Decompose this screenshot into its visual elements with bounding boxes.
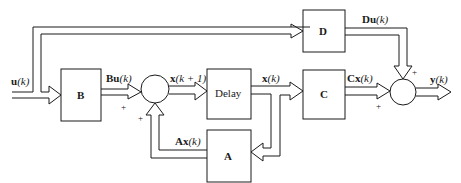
signal-label-Bu: Bu(k) (106, 73, 132, 84)
block-A-label: A (224, 151, 232, 162)
signal-label-x-next: x(k + 1) (170, 73, 206, 84)
block-B-label: B (77, 90, 84, 101)
sum2-sign-top: + (412, 68, 417, 77)
block-delay-label: Delay (215, 88, 241, 99)
sum2-sign-left: + (376, 102, 381, 111)
sum1-sign-bottom: + (138, 114, 143, 123)
signal-label-Du: Du(k) (362, 14, 388, 25)
signal-label-x: x(k) (262, 73, 280, 84)
block-C-label: C (320, 89, 328, 100)
sum1-sign-top: + (121, 103, 126, 112)
signal-label-input: u(k) (11, 76, 29, 87)
summing-junction-2 (390, 79, 416, 105)
summing-junction-1 (141, 75, 169, 103)
signal-label-output: y(k) (430, 74, 448, 85)
block-D-label: D (319, 26, 327, 37)
signal-label-Ax: Ax(k) (175, 136, 201, 147)
signal-label-Cx: Cx(k) (347, 73, 373, 84)
